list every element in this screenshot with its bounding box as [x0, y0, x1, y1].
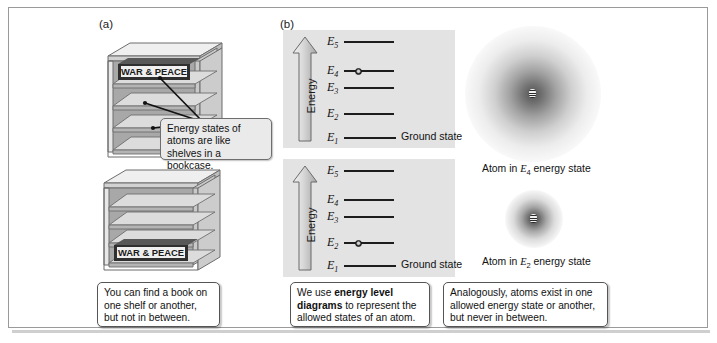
level-label-E3-lower: E3	[327, 209, 338, 225]
level-line-E2-lower	[344, 242, 394, 244]
caption-bookshelf: You can find a book on one shelf or anot…	[97, 282, 220, 327]
caption-diagram: We use energy level diagrams to represen…	[290, 282, 430, 327]
atom-caption-e4: Atom in E4 energy state	[482, 163, 591, 177]
callout-energy-states: Energy states of atoms are like shelves …	[160, 118, 272, 160]
level-line-E3-lower	[344, 216, 394, 218]
level-label-E5-lower: E5	[327, 163, 338, 179]
level-line-E3-upper	[344, 87, 394, 89]
panel-b-label: (b)	[280, 18, 294, 30]
level-label-E1-lower: E1	[327, 258, 338, 274]
book-war-and-peace-top: WAR & PEACE	[118, 58, 200, 80]
nucleus-e2	[530, 214, 537, 223]
level-line-E1-lower	[344, 265, 396, 267]
svg-text:WAR & PEACE: WAR & PEACE	[121, 66, 187, 77]
level-label-E2-upper: E2	[327, 106, 338, 122]
atom-caption-e2: Atom in E2 energy state	[482, 256, 591, 270]
frame-shadow	[12, 330, 710, 333]
level-label-E4-lower: E4	[327, 192, 338, 208]
ground-state-label-lower: Ground state	[401, 258, 462, 270]
level-label-E3-upper: E3	[327, 80, 338, 96]
svg-text:WAR & PEACE: WAR & PEACE	[118, 247, 184, 258]
bookcase-bottom: WAR & PEACE	[100, 167, 226, 273]
level-line-E4-upper	[344, 70, 394, 72]
caption-diagram-before: We use	[297, 287, 334, 298]
panel-a-label: (a)	[99, 18, 113, 30]
nucleus-e4	[529, 89, 536, 98]
energy-axis-label-lower: Energy	[305, 190, 317, 260]
ground-state-label-upper: Ground state	[401, 130, 462, 142]
level-line-E4-lower	[344, 199, 394, 201]
energy-axis-label-upper: Energy	[305, 61, 317, 131]
level-line-E2-upper	[344, 113, 394, 115]
electron-marker-upper	[355, 68, 362, 75]
level-line-E5-lower	[344, 170, 394, 172]
level-label-E1-upper: E1	[327, 130, 338, 146]
caption-atom: Analogously, atoms exist in one allowed …	[443, 282, 608, 327]
figure-root: (a) (b)	[0, 0, 717, 343]
level-line-E5-upper	[344, 41, 394, 43]
electron-marker-lower	[355, 240, 362, 247]
level-label-E2-lower: E2	[327, 235, 338, 251]
level-line-E1-upper	[344, 137, 396, 139]
book-war-and-peace-bottom: WAR & PEACE	[114, 239, 198, 261]
level-label-E4-upper: E4	[327, 63, 338, 79]
level-label-E5-upper: E5	[327, 34, 338, 50]
